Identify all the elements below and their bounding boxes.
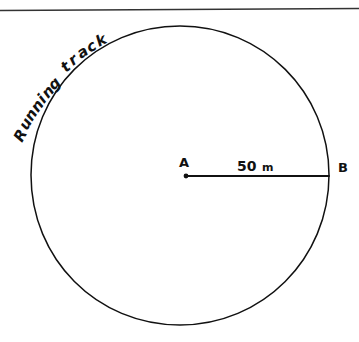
- dimension-value: 50: [237, 158, 257, 174]
- dimension-unit: m: [262, 161, 273, 174]
- point-label-b: B: [338, 160, 348, 175]
- point-label-a: A: [179, 155, 189, 170]
- page-background: [0, 0, 359, 342]
- running-track-diagram: A B 50 m R u n n i n g t r a c k: [0, 0, 359, 342]
- center-point-dot: [184, 174, 189, 179]
